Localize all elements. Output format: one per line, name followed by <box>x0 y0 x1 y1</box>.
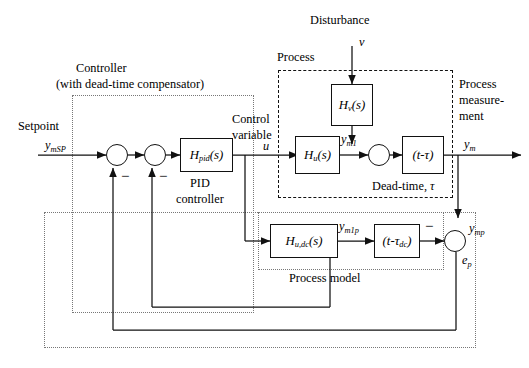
process-group-label: Process <box>277 51 315 65</box>
ymp-label: ymp <box>469 222 485 236</box>
summing-junction-model-error <box>444 230 466 252</box>
summing-junction-inner <box>144 144 166 166</box>
minus-sign-inner-junction: − <box>159 168 167 185</box>
block-dead-time[interactable]: (t-τ) <box>402 136 444 174</box>
block-pid-controller[interactable]: Hpid(s) <box>180 138 233 172</box>
ep-label: ep <box>462 254 472 268</box>
pid-caption-line2: controller <box>176 193 224 207</box>
block-diagram: Hpid(s) Hv(s) Hu(s) (t-τ) Hu,dc(s) (t-τd… <box>0 0 529 368</box>
summing-junction-outer <box>106 144 128 166</box>
process-model-group-label: Process model <box>289 272 360 286</box>
connector-layer <box>0 0 529 368</box>
setpoint-label: Setpoint <box>18 120 59 134</box>
controller-group-label-line2: (with dead-time compensator) <box>56 78 204 92</box>
block-process-transfer[interactable]: Hu(s) <box>295 136 340 174</box>
control-variable-label-line1: Control <box>232 113 270 127</box>
disturbance-variable-label: v <box>359 36 364 50</box>
disturbance-label: Disturbance <box>310 14 369 28</box>
measurement-label-line2: measure- <box>459 94 504 108</box>
block-pid-label: Hpid(s) <box>190 148 223 163</box>
block-hv-label: Hv(s) <box>339 98 365 113</box>
measurement-variable-label: ym <box>464 138 476 152</box>
controller-group-label-line1: Controller <box>76 62 127 76</box>
control-variable-symbol: u <box>263 140 269 154</box>
block-model-dead-time[interactable]: (t-τdc) <box>374 224 420 258</box>
pid-caption-line1: PID <box>190 177 210 191</box>
measurement-label-line1: Process <box>459 78 497 92</box>
block-model-dead-time-label: (t-τdc) <box>383 234 412 249</box>
summing-junction-process <box>368 144 390 166</box>
block-process-model-transfer[interactable]: Hu,dc(s) <box>270 224 338 258</box>
block-hudc-label: Hu,dc(s) <box>286 234 323 249</box>
measurement-label-line3: ment <box>459 110 484 124</box>
block-hu-label: Hu(s) <box>304 148 331 163</box>
setpoint-variable-label: ymSP <box>45 139 66 153</box>
ym1-label: ym1 <box>341 133 357 147</box>
block-disturbance-transfer[interactable]: Hv(s) <box>331 84 373 126</box>
minus-sign-outer-junction: − <box>121 168 129 185</box>
ym1p-label: ym1p <box>339 220 359 234</box>
minus-sign-model-error-junction: − <box>425 218 433 235</box>
dead-time-caption: Dead-time, τ <box>372 180 434 194</box>
block-dead-time-label: (t-τ) <box>413 148 434 163</box>
